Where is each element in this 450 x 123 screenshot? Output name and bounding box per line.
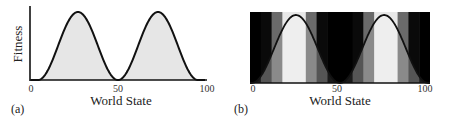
x-tick-0: 0 bbox=[251, 83, 256, 94]
y-axis-label: Fitness bbox=[10, 22, 26, 66]
panel-b-banded-chart: 0 50 100 World State (b) bbox=[225, 0, 450, 123]
x-tick-100: 100 bbox=[200, 83, 215, 94]
x-tick-100: 100 bbox=[418, 83, 433, 94]
panel-label-b: (b) bbox=[234, 102, 248, 117]
panel-label-a: (a) bbox=[11, 102, 24, 117]
x-axis-label: World State bbox=[90, 93, 151, 109]
x-axis-label: World State bbox=[309, 93, 370, 109]
x-tick-0: 0 bbox=[29, 83, 34, 94]
panel-a-fitness-chart: Fitness 0 50 100 World State (a) bbox=[0, 0, 225, 123]
